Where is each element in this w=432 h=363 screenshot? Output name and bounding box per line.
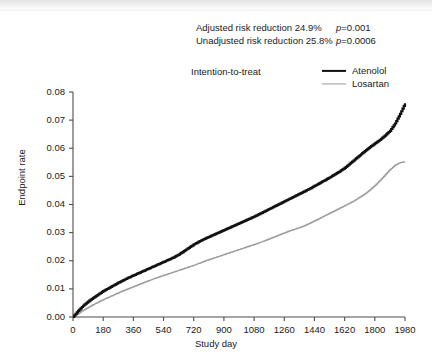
- y-tick-label: 0.04: [31, 198, 65, 209]
- y-tick-label: 0.05: [31, 170, 65, 181]
- x-tick-label: 1980: [385, 324, 425, 335]
- plot-area: [0, 0, 432, 363]
- x-axis-ticks: [73, 317, 405, 321]
- y-tick-label: 0.08: [31, 86, 65, 97]
- series-line-atenolol: [73, 103, 405, 317]
- series-line-losartan: [73, 162, 405, 317]
- y-tick-label: 0.01: [31, 282, 65, 293]
- y-tick-label: 0.03: [31, 226, 65, 237]
- kaplan-meier-figure: Adjusted risk reduction 24.9% p=0.001 Un…: [0, 0, 432, 363]
- y-tick-label: 0.00: [31, 311, 65, 322]
- axis-lines: [73, 92, 405, 317]
- y-tick-label: 0.06: [31, 142, 65, 153]
- y-tick-label: 0.07: [31, 114, 65, 125]
- y-axis-ticks: [69, 92, 73, 317]
- y-tick-label: 0.02: [31, 254, 65, 265]
